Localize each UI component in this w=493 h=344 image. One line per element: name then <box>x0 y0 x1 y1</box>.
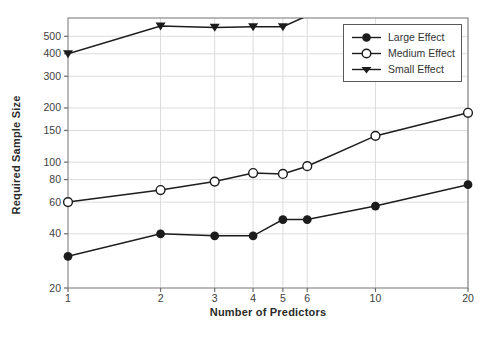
open-circle-marker <box>249 169 258 178</box>
x-tick-label: 1 <box>65 292 71 304</box>
y-tick-label: 20 <box>49 282 61 294</box>
legend-label-large-effect: Large Effect <box>388 31 444 43</box>
x-tick-label: 2 <box>158 292 164 304</box>
x-tick-label: 20 <box>462 292 474 304</box>
y-tick-label: 40 <box>49 227 61 239</box>
open-circle-marker <box>371 131 380 140</box>
power-analysis-line-chart: 123456102020406080100150200300400500 Req… <box>0 0 493 344</box>
y-tick-label: 300 <box>43 70 61 82</box>
x-tick-label: 4 <box>250 292 256 304</box>
y-tick-label: 500 <box>43 30 61 42</box>
x-tick-label: 3 <box>212 292 218 304</box>
open-circle-marker <box>303 162 312 171</box>
legend-box: Large Effect Medium Effect Small Effect <box>343 24 462 82</box>
filled-circle-marker <box>64 252 73 261</box>
x-axis-title: Number of Predictors <box>68 306 468 318</box>
y-axis-title: Required Sample Size <box>10 75 22 235</box>
x-tick-label: 5 <box>280 292 286 304</box>
x-tick-label: 6 <box>304 292 310 304</box>
y-tick-label: 80 <box>49 173 61 185</box>
open-circle-line-icon <box>351 48 382 59</box>
filled-circle-marker <box>249 231 258 240</box>
y-tick-label: 400 <box>43 47 61 59</box>
legend-row-small-effect: Small Effect <box>351 61 461 77</box>
open-circle-marker <box>210 177 219 186</box>
filled-circle-marker <box>156 229 165 238</box>
legend-row-large-effect: Large Effect <box>351 29 461 45</box>
y-tick-label: 100 <box>43 156 61 168</box>
open-circle-marker <box>156 186 165 195</box>
open-circle-marker <box>64 198 73 207</box>
filled-circle-marker <box>464 180 473 189</box>
legend-label-small-effect: Small Effect <box>388 63 444 75</box>
legend-label-medium-effect: Medium Effect <box>388 47 455 59</box>
open-circle-marker <box>278 170 287 179</box>
filled-circle-marker <box>278 215 287 224</box>
filled-circle-marker <box>371 202 380 211</box>
filled-triangle-down-line-icon <box>351 64 382 75</box>
filled-circle-line-icon <box>351 32 382 43</box>
y-tick-label: 150 <box>43 124 61 136</box>
y-tick-label: 200 <box>43 101 61 113</box>
filled-circle-marker <box>303 215 312 224</box>
x-tick-label: 10 <box>370 292 382 304</box>
open-circle-marker <box>464 108 473 117</box>
y-tick-label: 60 <box>49 196 61 208</box>
filled-circle-marker <box>210 231 219 240</box>
legend-row-medium-effect: Medium Effect <box>351 45 461 61</box>
